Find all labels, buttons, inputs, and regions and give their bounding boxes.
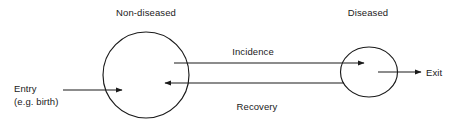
flow-label-recovery: Recovery: [208, 100, 306, 113]
endpoint-label-exit: Exit: [426, 66, 442, 79]
endpoint-label-entry-secondary: (e.g. birth): [14, 95, 59, 108]
node-label-non-diseased: Non-diseased: [103, 6, 189, 19]
disease-model-diagram: Non-diseased Diseased Incidence Recovery…: [0, 0, 465, 126]
endpoint-label-entry: Entry (e.g. birth): [14, 82, 59, 108]
endpoint-label-entry-primary: Entry: [14, 82, 59, 95]
node-non-diseased-shape: [103, 32, 189, 118]
flow-label-incidence: Incidence: [204, 45, 302, 58]
node-label-diseased: Diseased: [330, 6, 406, 19]
